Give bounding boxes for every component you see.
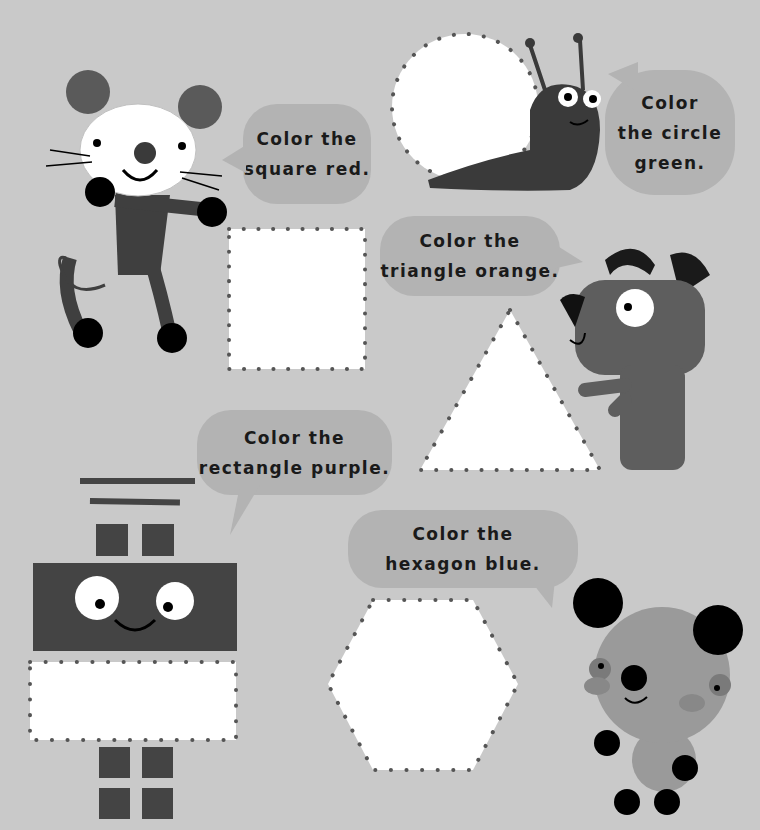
instruction-line: Color the [243,124,371,154]
robot-character [0,470,250,830]
instruction-line: Color the [380,226,560,256]
instruction-line: square red. [243,154,371,184]
dog-character [555,235,725,475]
snail-character [420,30,620,230]
dotted-square[interactable] [229,229,369,369]
instruction-line: rectangle purple. [197,453,392,483]
instruction-line: triangle orange. [380,256,560,286]
instruction-line: Color the [197,423,392,453]
dotted-hexagon[interactable] [325,598,525,778]
bear-character [565,575,755,815]
instruction-line: green. [605,148,735,178]
bubble-tail [608,62,648,92]
dotted-rectangle[interactable] [29,661,239,743]
speech-bubble-hexagon: Color the hexagon blue. [348,510,578,588]
instruction-line: hexagon blue. [348,549,578,579]
speech-bubble-rectangle: Color the rectangle purple. [197,410,392,495]
instruction-line: the circle [605,118,735,148]
bubble-tail [230,485,270,535]
bubble-tail [222,145,252,175]
speech-bubble-triangle: Color the triangle orange. [380,216,560,296]
instruction-line: Color [605,88,735,118]
bubble-tail [530,580,560,620]
mouse-character [0,0,240,360]
speech-bubble-square: Color the square red. [243,104,371,204]
instruction-line: Color the [348,519,578,549]
